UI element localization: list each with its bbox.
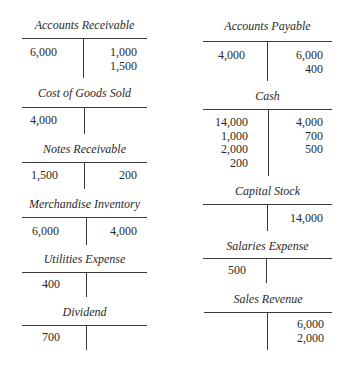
account-title: Cost of Goods Sold (22, 86, 147, 100)
debit-entry: 1,500 (31, 169, 58, 183)
t-account-notes-receivable: Notes Receivable 1,500 200 (22, 141, 147, 191)
account-title: Sales Revenue (204, 292, 332, 306)
account-rule (22, 325, 147, 326)
account-title: Merchandise Inventory (22, 197, 147, 211)
account-divider (84, 162, 85, 189)
t-account-utilities-expense: Utilities Expense 400 (22, 251, 147, 301)
t-account-cost-of-goods-sold: Cost of Goods Sold 4,000 (22, 85, 147, 135)
debit-column: 500 (228, 264, 246, 278)
debit-entry: 200 (215, 157, 248, 171)
credit-entry: 2,000 (297, 332, 324, 346)
account-divider (83, 38, 84, 78)
t-account-salaries-expense: Salaries Expense 500 (203, 238, 332, 288)
account-title: Utilities Expense (22, 252, 147, 266)
debit-column: 6,000 (30, 46, 57, 60)
account-rule (203, 258, 332, 259)
debit-entry: 700 (42, 331, 60, 345)
account-rule (22, 217, 147, 218)
credit-column: 4,000 (110, 225, 137, 239)
debit-column: 14,000 1,000 2,000 200 (215, 116, 248, 170)
t-account-cash: Cash 14,000 1,000 2,000 200 4,000 700 50… (203, 88, 332, 178)
account-divider (86, 272, 87, 297)
credit-entry: 6,000 (297, 318, 324, 332)
t-account-merchandise-inventory: Merchandise Inventory 6,000 4,000 (22, 196, 147, 246)
debit-entry: 6,000 (30, 46, 57, 60)
credit-entry: 500 (296, 143, 323, 157)
credit-column: 4,000 700 500 (296, 116, 323, 157)
credit-column: 6,000 2,000 (297, 318, 324, 345)
account-title: Notes Receivable (22, 142, 147, 156)
debit-entry: 4,000 (218, 49, 245, 63)
t-account-capital-stock: Capital Stock 14,000 (203, 183, 332, 233)
account-rule (22, 272, 147, 273)
credit-entry: 1,000 (110, 46, 137, 60)
credit-entry: 1,500 (110, 60, 137, 74)
account-title: Capital Stock (203, 184, 332, 198)
account-divider (268, 109, 269, 176)
credit-column: 1,000 1,500 (110, 46, 137, 73)
debit-column: 700 (42, 331, 60, 345)
credit-entry: 200 (119, 169, 137, 183)
account-divider (267, 204, 268, 231)
account-title: Dividend (22, 305, 147, 319)
credit-column: 14,000 (290, 212, 323, 226)
credit-entry: 4,000 (110, 225, 137, 239)
account-title: Salaries Expense (203, 239, 332, 253)
debit-entry: 1,000 (215, 130, 248, 144)
debit-entry: 500 (228, 264, 246, 278)
account-divider (86, 325, 87, 350)
debit-entry: 14,000 (215, 116, 248, 130)
t-account-accounts-receivable: Accounts Receivable 6,000 1,000 1,500 (22, 17, 147, 81)
debit-column: 1,500 (31, 169, 58, 183)
t-account-accounts-payable: Accounts Payable 4,000 6,000 400 (203, 18, 332, 82)
debit-entry: 2,000 (215, 143, 248, 157)
account-title: Accounts Payable (203, 19, 332, 33)
t-account-dividend: Dividend 700 (22, 304, 147, 354)
debit-column: 4,000 (218, 49, 245, 63)
credit-entry: 700 (296, 130, 323, 144)
account-divider (266, 258, 267, 283)
account-title: Cash (203, 89, 332, 103)
account-rule (22, 38, 147, 39)
credit-entry: 6,000 (296, 49, 323, 63)
debit-column: 4,000 (30, 114, 57, 128)
debit-column: 6,000 (32, 225, 59, 239)
debit-column: 400 (42, 278, 60, 292)
account-divider (267, 41, 268, 81)
debit-entry: 400 (42, 278, 60, 292)
account-divider (84, 107, 85, 134)
debit-entry: 6,000 (32, 225, 59, 239)
credit-entry: 400 (296, 63, 323, 77)
credit-column: 200 (119, 169, 137, 183)
credit-entry: 4,000 (296, 116, 323, 130)
account-divider (86, 217, 87, 245)
credit-entry: 14,000 (290, 212, 323, 226)
account-rule (204, 312, 332, 313)
t-account-sales-revenue: Sales Revenue 6,000 2,000 (204, 291, 332, 355)
account-divider (267, 312, 268, 350)
debit-entry: 4,000 (30, 114, 57, 128)
credit-column: 6,000 400 (296, 49, 323, 76)
account-title: Accounts Receivable (22, 18, 147, 32)
